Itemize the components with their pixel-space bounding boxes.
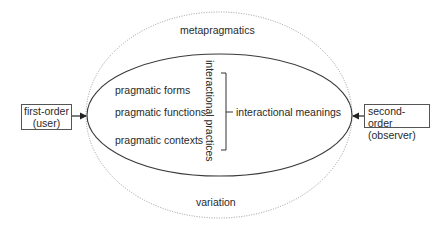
pragmatic-contexts-label: pragmatic contexts (115, 134, 203, 146)
pragmatic-functions-label: pragmatic functions (115, 106, 206, 118)
second-order-box: second-order (observer) (364, 104, 430, 128)
first-order-line2: (user) (22, 117, 71, 129)
second-order-line2: (observer) (368, 129, 429, 141)
metapragmatics-label: metapragmatics (180, 24, 255, 36)
interactional-practices-label: interactional practices (204, 60, 216, 162)
first-order-line1: first-order (22, 105, 71, 117)
second-order-line1: second-order (368, 105, 429, 129)
variation-label: variation (196, 196, 236, 208)
bracket (221, 73, 233, 150)
interactional-meanings-label: interactional meanings (236, 106, 341, 118)
first-order-box: first-order (user) (21, 104, 72, 130)
pragmatic-forms-label: pragmatic forms (115, 84, 190, 96)
